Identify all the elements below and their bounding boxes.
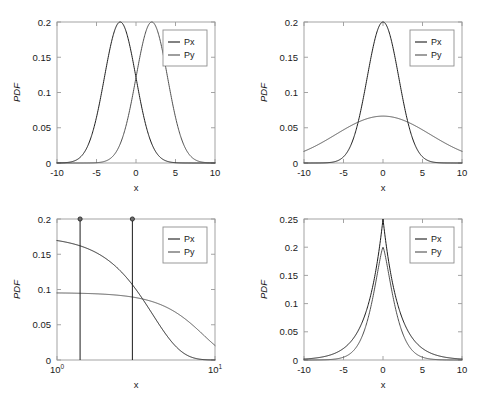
x-axis-label: x [134, 182, 139, 193]
svg-text:0.2: 0.2 [285, 17, 298, 28]
svg-text:-5: -5 [339, 364, 347, 375]
svg-text:0: 0 [293, 355, 298, 366]
marker-dot [130, 217, 134, 221]
legend-label-px: Px [184, 37, 195, 47]
svg-text:0.15: 0.15 [33, 249, 52, 260]
legend-label-px: Px [431, 37, 442, 47]
svg-text:0.25: 0.25 [280, 214, 299, 225]
svg-text:0.15: 0.15 [280, 52, 299, 63]
svg-text:5: 5 [420, 167, 425, 178]
svg-text:-10: -10 [50, 167, 64, 178]
chart-panel-bottom-right: -10-5051000.050.10.150.20.25xPDFPxPy [247, 197, 493, 394]
chart-svg-top-left: -10-5051000.050.10.150.2xPDFPxPy [0, 0, 246, 197]
svg-text:-5: -5 [339, 167, 347, 178]
svg-text:10: 10 [457, 167, 468, 178]
svg-text:0.2: 0.2 [38, 214, 51, 225]
x-axis-label: x [381, 182, 386, 193]
svg-text:0.05: 0.05 [280, 122, 299, 133]
svg-text:0: 0 [46, 158, 51, 169]
svg-text:0.15: 0.15 [33, 52, 52, 63]
svg-text:100: 100 [50, 363, 65, 375]
svg-text:5: 5 [173, 167, 178, 178]
legend-label-py: Py [431, 50, 442, 60]
y-axis-label: PDF [258, 82, 269, 102]
svg-text:0.1: 0.1 [38, 284, 51, 295]
y-axis-label: PDF [258, 279, 269, 299]
y-axis-label: PDF [11, 82, 22, 102]
svg-text:0.05: 0.05 [33, 319, 52, 330]
figure-canvas: -10-5051000.050.10.150.2xPDFPxPy -10-505… [0, 0, 493, 399]
svg-text:0.1: 0.1 [38, 87, 51, 98]
svg-text:10: 10 [457, 364, 468, 375]
svg-text:-5: -5 [92, 167, 100, 178]
legend-label-py: Py [184, 247, 195, 257]
svg-text:10: 10 [210, 167, 221, 178]
legend-label-py: Py [184, 50, 195, 60]
legend-box [410, 227, 454, 263]
svg-text:0.15: 0.15 [280, 270, 299, 281]
svg-text:0.05: 0.05 [280, 326, 299, 337]
marker-dot [78, 217, 82, 221]
legend-label-py: Py [431, 247, 442, 257]
svg-text:0.05: 0.05 [33, 122, 52, 133]
x-axis-label: x [134, 379, 139, 390]
svg-text:-10: -10 [297, 167, 311, 178]
svg-text:5: 5 [420, 364, 425, 375]
legend-label-px: Px [184, 234, 195, 244]
legend-label-px: Px [431, 234, 442, 244]
svg-text:0.1: 0.1 [285, 298, 298, 309]
svg-text:0.2: 0.2 [285, 242, 298, 253]
series-curve-py [57, 293, 215, 346]
svg-text:101: 101 [208, 363, 223, 375]
chart-svg-bottom-right: -10-5051000.050.10.150.20.25xPDFPxPy [247, 197, 493, 394]
chart-svg-top-right: -10-5051000.050.10.150.2xPDFPxPy [247, 0, 493, 197]
svg-text:0.2: 0.2 [38, 17, 51, 28]
svg-text:0.1: 0.1 [285, 87, 298, 98]
svg-text:-10: -10 [297, 364, 311, 375]
legend-box [163, 30, 207, 66]
svg-text:0: 0 [293, 158, 298, 169]
svg-text:0: 0 [133, 167, 138, 178]
chart-svg-bottom-left: 10010100.050.10.150.2xPDFPxPy [0, 197, 246, 394]
x-axis-label: x [381, 379, 386, 390]
svg-text:0: 0 [46, 355, 51, 366]
series-curve-py [304, 116, 462, 151]
series-curve-py [304, 247, 462, 360]
svg-text:0: 0 [380, 364, 385, 375]
chart-panel-bottom-left: 10010100.050.10.150.2xPDFPxPy [0, 197, 246, 394]
svg-text:0: 0 [380, 167, 385, 178]
y-axis-label: PDF [11, 279, 22, 299]
chart-panel-top-left: -10-5051000.050.10.150.2xPDFPxPy [0, 0, 246, 197]
chart-panel-top-right: -10-5051000.050.10.150.2xPDFPxPy [247, 0, 493, 197]
legend-box [163, 227, 207, 263]
legend-box [410, 30, 454, 66]
